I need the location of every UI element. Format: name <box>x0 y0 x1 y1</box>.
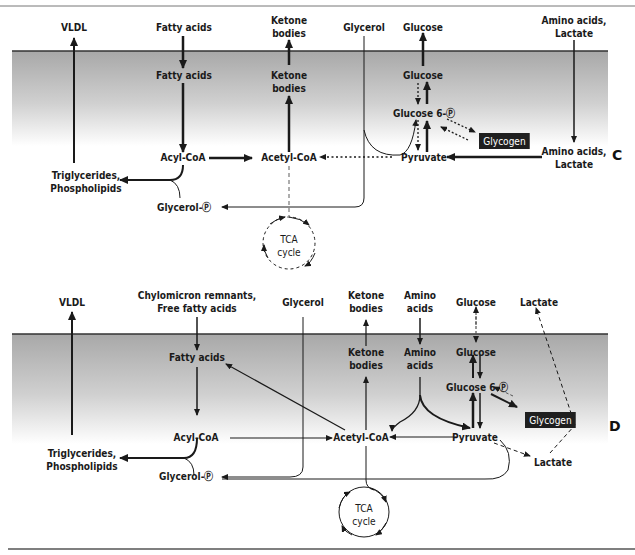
label-pyruvate: Pyruvate <box>401 151 447 164</box>
label-acyl-coa: Acyl-CoA <box>174 431 219 444</box>
label-glucose-inside: Glucose <box>456 346 496 359</box>
cell-interior-shading-d <box>12 334 608 444</box>
label-acetyl-coa: Acetyl-CoA <box>333 431 388 444</box>
label-acyl-coa: Acyl-CoA <box>161 151 206 164</box>
label-vldl-outside: VLDL <box>59 296 85 309</box>
label-glycerol-p: Glycerol-Ⓟ <box>159 470 213 483</box>
panel-letter-d: D <box>609 418 621 434</box>
label-ketone-bodies-inside: Ketone bodies <box>271 69 307 95</box>
label-amino-acids-inside: Amino acids <box>404 346 436 372</box>
label-fatty-acids-inside: Fatty acids <box>169 351 225 364</box>
label-glucose-outside: Glucose <box>456 296 496 309</box>
label-triglycerides-phospholipids: Triglycerides, Phospholipids <box>46 447 117 473</box>
label-glucose-6p: Glucose 6-Ⓟ <box>446 381 508 394</box>
label-glycerol-outside: Glycerol <box>282 296 324 309</box>
label-glucose-inside: Glucose <box>403 69 443 82</box>
label-amino-acids-outside: Amino acids <box>404 289 436 315</box>
label-glucose-outside: Glucose <box>403 21 443 34</box>
cell-interior-shading-c <box>12 51 608 146</box>
label-amino-acids-lactate-inside: Amino acids, Lactate <box>541 145 606 171</box>
label-lactate-outside: Lactate <box>520 296 558 309</box>
label-tca-cycle: TCA cycle <box>277 233 300 259</box>
label-ketone-bodies-inside: Ketone bodies <box>348 346 384 372</box>
panel-letter-c: C <box>612 147 622 163</box>
label-triglycerides-phospholipids: Triglycerides, Phospholipids <box>50 169 121 195</box>
label-fatty-acids-outside: Fatty acids <box>156 21 212 34</box>
label-acetyl-coa: Acetyl-CoA <box>261 151 316 164</box>
metabolic-pathway-figure: VLDL Fatty acids Ketone bodies Glycerol … <box>0 0 635 555</box>
label-pyruvate: Pyruvate <box>452 431 498 444</box>
label-amino-acids-lactate-outside: Amino acids, Lactate <box>541 14 606 40</box>
label-ketone-bodies-outside: Ketone bodies <box>271 14 307 40</box>
label-glycogen: Glycogen <box>479 133 530 149</box>
panel-d-graphics <box>12 307 608 537</box>
label-glycerol-outside: Glycerol <box>343 21 385 34</box>
label-glycogen: Glycogen <box>525 412 576 428</box>
label-fatty-acids-inside: Fatty acids <box>156 69 212 82</box>
label-vldl-outside: VLDL <box>61 21 87 34</box>
label-glycerol-p: Glycerol-Ⓟ <box>157 201 211 214</box>
label-chylomicron-ffa-outside: Chylomicron remnants, Free fatty acids <box>138 289 256 315</box>
label-ketone-bodies-outside: Ketone bodies <box>348 289 384 315</box>
label-glucose-6p: Glucose 6-Ⓟ <box>393 107 455 120</box>
label-tca-cycle: TCA cycle <box>352 502 375 528</box>
label-lactate-inside: Lactate <box>534 456 572 469</box>
